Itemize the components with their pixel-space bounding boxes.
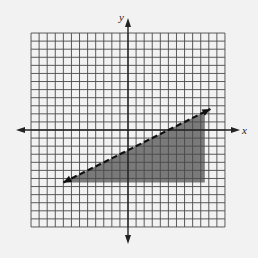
y-axis-down-arrow-icon [125, 235, 131, 244]
x-axis-right-arrow-icon [231, 127, 240, 133]
x-axis-left-arrow-icon [16, 127, 25, 133]
y-axis-label: y [118, 11, 124, 23]
x-axis-label: x [241, 124, 247, 136]
y-axis-up-arrow-icon [125, 18, 131, 27]
inequality-graph: y x [0, 0, 258, 258]
axes: y x [16, 11, 247, 244]
